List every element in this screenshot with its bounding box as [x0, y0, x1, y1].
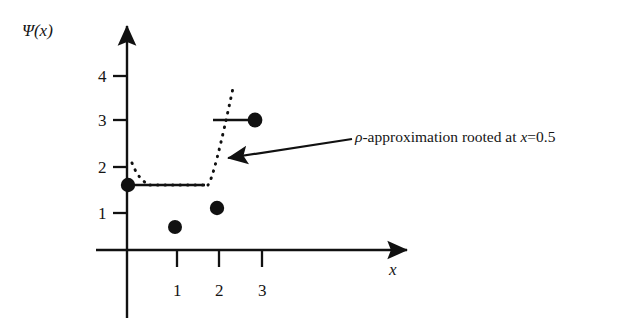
rho-approximation-curve — [132, 88, 233, 185]
x-tick-label-3: 3 — [258, 282, 267, 299]
data-point-origin — [121, 178, 135, 192]
x-tick-label-2: 2 — [215, 282, 224, 299]
y-axis — [113, 26, 128, 318]
annotation-arrow-line — [228, 139, 352, 158]
annotation-value-text: =0.5 — [527, 128, 555, 145]
data-point-3 — [248, 113, 263, 128]
annotation-arrow — [228, 139, 352, 158]
x-tick-label-1: 1 — [173, 282, 182, 299]
y-axis-title: Ψ(x) — [22, 22, 53, 39]
data-point-1 — [168, 220, 182, 234]
figure-canvas: Ψ(x) x 4 3 2 1 1 2 3 ρ-approximation roo… — [0, 0, 634, 327]
step-segments — [127, 120, 254, 185]
data-point-2 — [210, 201, 224, 215]
y-tick-label-3: 3 — [98, 112, 107, 129]
data-points — [121, 113, 263, 234]
annotation-label: ρ-approximation rooted at x=0.5 — [355, 129, 555, 145]
y-tick-label-4: 4 — [98, 68, 107, 85]
approx-curve-descending — [132, 163, 150, 185]
approx-curve-rising — [208, 88, 233, 185]
x-axis — [96, 249, 407, 267]
annotation-body-text: -approximation rooted at — [362, 128, 520, 145]
y-tick-label-1: 1 — [98, 205, 107, 222]
y-tick-label-2: 2 — [98, 159, 107, 176]
x-axis-title: x — [389, 261, 397, 278]
plot-svg — [0, 0, 634, 327]
